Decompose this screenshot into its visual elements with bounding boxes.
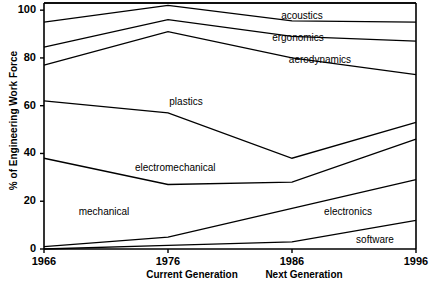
series-boundary-mechanical xyxy=(44,139,416,184)
area-label-aerodynamics: aerodynamics xyxy=(280,54,360,65)
x-tick-label-1976: 1976 xyxy=(140,255,196,267)
x-tick-label-1966: 1966 xyxy=(16,255,72,267)
area-label-electronics: electronics xyxy=(308,206,388,217)
series-boundary-plastics xyxy=(44,32,416,75)
area-label-acoustics: acoustics xyxy=(262,10,342,21)
generation-label-current-generation: Current Generation xyxy=(132,269,252,280)
y-tick-label-100: 100 xyxy=(0,3,36,15)
series-boundary-ergonomics xyxy=(44,5,416,22)
y-tick-label-0: 0 xyxy=(0,242,36,254)
generation-label-next-generation: Next Generation xyxy=(244,269,364,280)
area-label-ergonomics: ergonomics xyxy=(258,32,338,43)
area-label-plastics: plastics xyxy=(146,96,226,107)
y-tick-label-60: 60 xyxy=(0,99,36,111)
area-label-electromechanical: electromechanical xyxy=(135,162,215,173)
series-boundary-aerodynamics xyxy=(44,20,416,47)
area-label-mechanical: mechanical xyxy=(64,206,144,217)
x-tick-label-1986: 1986 xyxy=(264,255,320,267)
y-tick-label-20: 20 xyxy=(0,194,36,206)
y-tick-label-40: 40 xyxy=(0,146,36,158)
y-tick-label-80: 80 xyxy=(0,51,36,63)
x-tick-label-1996: 1996 xyxy=(388,255,433,267)
area-label-software: software xyxy=(335,234,415,245)
series-boundary-electromechanical xyxy=(44,101,416,158)
